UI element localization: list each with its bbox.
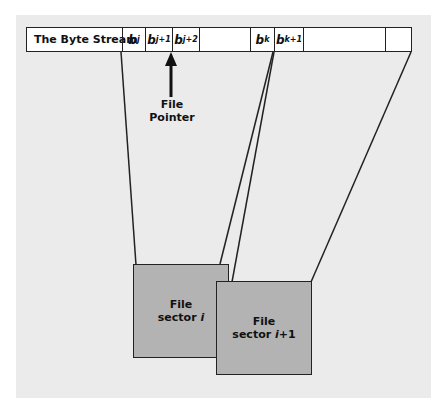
file-pointer-label: File Pointer xyxy=(148,98,196,124)
pointer-label-line1: File xyxy=(148,98,196,111)
sector-label-line1: File xyxy=(253,315,276,328)
sector-prefix: sector xyxy=(232,328,275,341)
sector-label-line2: sector i+1 xyxy=(232,328,295,341)
sector-suffix: +1 xyxy=(279,328,296,341)
sector-prefix: sector xyxy=(158,311,201,324)
sector-label-line2: sector i xyxy=(158,311,204,324)
sector-index: i xyxy=(200,311,204,324)
arrow-up-icon xyxy=(165,52,177,97)
pointer-label-line2: Pointer xyxy=(148,111,196,124)
sector-label-line1: File xyxy=(170,298,193,311)
file-sector-i: File sector i xyxy=(133,264,229,358)
connector-line xyxy=(232,52,274,282)
connector-line xyxy=(220,52,273,264)
file-sector-i-plus-1: File sector i+1 xyxy=(216,281,312,375)
connector-line xyxy=(121,52,136,265)
connector-line xyxy=(311,52,411,282)
